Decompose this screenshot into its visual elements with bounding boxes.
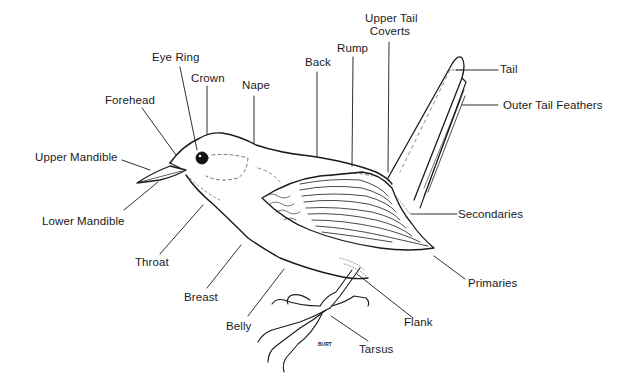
label-tarsus: Tarsus (359, 343, 393, 356)
label-forehead: Forehead (105, 94, 155, 107)
label-crown: Crown (191, 72, 225, 85)
label-nape: Nape (242, 79, 270, 92)
label-belly: Belly (226, 320, 251, 333)
label-throat: Throat (135, 256, 169, 269)
label-back: Back (305, 56, 331, 69)
label-upper-tail-coverts-line-1: Upper Tail (365, 12, 415, 25)
label-secondaries: Secondaries (458, 208, 523, 221)
flank-drawing (340, 258, 366, 276)
artist-signature: BURT (318, 341, 332, 347)
label-upper-tail-coverts-line-2: Coverts (365, 25, 415, 38)
label-flank: Flank (404, 316, 433, 329)
tail-drawing (388, 57, 466, 208)
bird-topography-diagram: BURT Eye Ring Crown Forehead Nape Back R… (0, 0, 636, 391)
label-tail: Tail (500, 63, 518, 76)
label-outer-tail-feathers: Outer Tail Feathers (503, 99, 602, 112)
label-rump: Rump (337, 42, 368, 55)
label-primaries: Primaries (468, 277, 517, 290)
wing-drawing (262, 172, 434, 250)
label-breast: Breast (184, 291, 218, 304)
label-eye-ring: Eye Ring (152, 51, 199, 64)
label-lower-mandible: Lower Mandible (42, 215, 125, 228)
label-upper-tail-coverts: Upper Tail Coverts (365, 12, 415, 38)
label-upper-mandible: Upper Mandible (35, 151, 118, 164)
legs-drawing (258, 268, 369, 372)
